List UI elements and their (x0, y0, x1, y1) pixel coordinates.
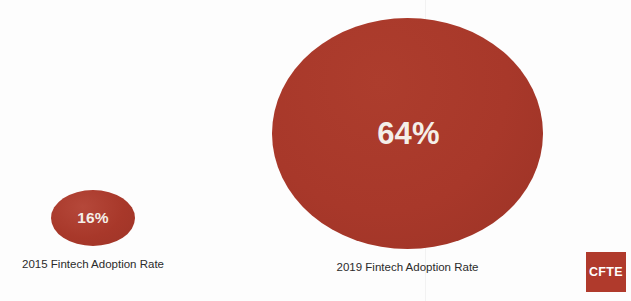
bubble-2019-value: 64% (377, 118, 440, 149)
bubble-chart: 16% 64% 2015 Fintech Adoption Rate 2019 … (0, 0, 631, 301)
bubble-2019-adoption: 64% (272, 18, 543, 249)
cfte-logo: CFTE (586, 252, 626, 292)
bubble-2015-label: 2015 Fintech Adoption Rate (0, 258, 186, 271)
bubble-2015-adoption: 16% (51, 190, 135, 246)
bubble-2019-label: 2019 Fintech Adoption Rate (292, 261, 523, 274)
cfte-logo-text: CFTE (589, 266, 623, 279)
bubble-2015-value: 16% (77, 210, 109, 226)
